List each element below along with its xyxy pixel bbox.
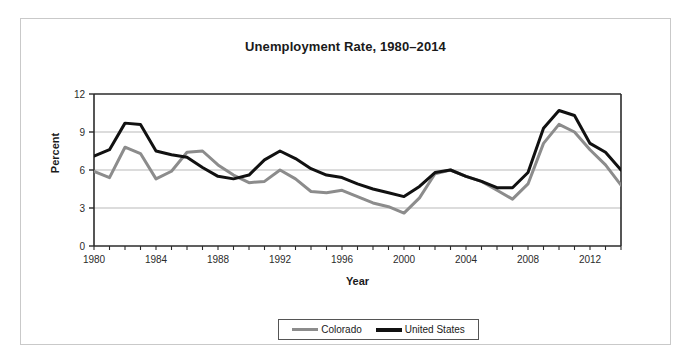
x-tick-label: 2000 (393, 254, 416, 265)
series-line-united-states (94, 110, 621, 196)
line-chart: 0369121980198419881992199620002004200820… (21, 19, 672, 346)
legend-color-swatch-united-states (376, 328, 402, 332)
plot-area: 0369121980198419881992199620002004200820… (21, 19, 672, 346)
legend-item-colorado[interactable]: Colorado (292, 324, 362, 335)
x-axis-title: Year (94, 275, 621, 287)
x-tick-label: 2012 (579, 254, 602, 265)
legend-item-united-states[interactable]: United States (376, 324, 465, 335)
x-tick-label: 1992 (269, 254, 292, 265)
legend-label-colorado: Colorado (321, 324, 362, 335)
legend-label-united-states: United States (405, 324, 465, 335)
x-tick-label: 1980 (83, 254, 106, 265)
series-line-colorado (94, 124, 621, 213)
y-tick-label: 3 (79, 203, 85, 214)
y-tick-label: 0 (79, 241, 85, 252)
y-tick-label: 12 (74, 89, 86, 100)
x-tick-label: 2004 (455, 254, 478, 265)
legend-color-swatch-colorado (292, 328, 318, 331)
y-tick-label: 9 (79, 127, 85, 138)
x-tick-label: 1996 (331, 254, 354, 265)
figure-frame: Unemployment Rate, 1980–2014 03691219801… (20, 18, 671, 345)
x-tick-label: 2008 (517, 254, 540, 265)
x-tick-label: 1984 (145, 254, 168, 265)
x-tick-label: 1988 (207, 254, 230, 265)
y-tick-label: 6 (79, 165, 85, 176)
y-axis-title: Percent (49, 113, 61, 193)
chart-legend: Colorado United States (278, 319, 479, 340)
